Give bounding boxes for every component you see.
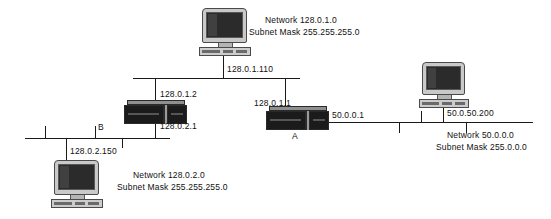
screen-glare: [60, 166, 69, 188]
router-b-interface-2-ip: 128.0.2.1: [160, 121, 197, 131]
network-128-0-1-0-name: Network 128.0.1.0: [265, 15, 337, 25]
keyboard-keys: [202, 50, 220, 53]
host-right-ip-label: 50.0.50.200: [447, 108, 494, 118]
bus-stub: [95, 126, 96, 138]
keyboard-keys: [223, 50, 233, 53]
network-128-0-2-0-name: Network 128.0.2.0: [133, 170, 205, 180]
keyboard-keys: [88, 202, 99, 205]
bus-stub: [421, 111, 422, 122]
host-top-link: [223, 56, 224, 78]
router-led-strip: [128, 113, 159, 115]
bus-stub: [399, 122, 400, 133]
network-50-0-0-0-name: Network 50.0.0.0: [447, 130, 514, 140]
router-b-name-label: B: [98, 122, 104, 132]
host-top-computer-icon: [198, 8, 252, 56]
host-bottom-left-computer-icon: [50, 160, 104, 210]
host-top-ip-label: 128.0.1.110: [227, 64, 273, 74]
host-bottom-left-ip-label: 128.0.2.150: [70, 146, 117, 156]
bus-segment-50-0-0-0: [336, 122, 533, 123]
router-b-interface-1-ip: 128.0.1.2: [160, 89, 197, 99]
host-bottom-left-link: [66, 138, 67, 160]
router-b-downlink: [155, 124, 156, 138]
router-b-uplink: [155, 78, 156, 100]
keyboard-keys: [75, 202, 85, 205]
keyboard-keys: [422, 102, 439, 105]
keyboard-keys: [54, 202, 72, 205]
bus-stub: [122, 138, 123, 148]
screen-glare: [208, 14, 217, 36]
network-50-0-0-0-mask: Subnet Mask 255.0.0.0: [436, 142, 527, 152]
router-led-strip: [313, 119, 325, 121]
keyboard-keys: [442, 102, 452, 105]
router-a-interface-1-ip: 128.0.1.1: [254, 98, 291, 108]
router-led-strip: [171, 113, 183, 115]
network-diagram: 128.0.1.110 Network 128.0.1.0 Subnet Mas…: [0, 0, 551, 219]
host-right-link: [443, 106, 444, 122]
bus-stub: [45, 126, 46, 138]
router-a-name-label: A: [292, 131, 298, 141]
network-128-0-1-0-mask: Subnet Mask 255.255.255.0: [249, 27, 360, 37]
host-right-computer-icon: [418, 62, 470, 108]
network-128-0-2-0-mask: Subnet Mask 255.255.255.0: [117, 182, 228, 192]
router-led-strip: [270, 119, 301, 121]
keyboard-keys: [236, 50, 247, 53]
router-a-icon: [266, 106, 329, 130]
bus-segment-128-0-2-0: [25, 138, 170, 139]
bus-segment-128-0-1-0: [133, 78, 300, 79]
router-a-interface-2-ip: 50.0.0.1: [332, 110, 364, 120]
screen-glare: [428, 68, 436, 88]
keyboard-keys: [455, 102, 465, 105]
